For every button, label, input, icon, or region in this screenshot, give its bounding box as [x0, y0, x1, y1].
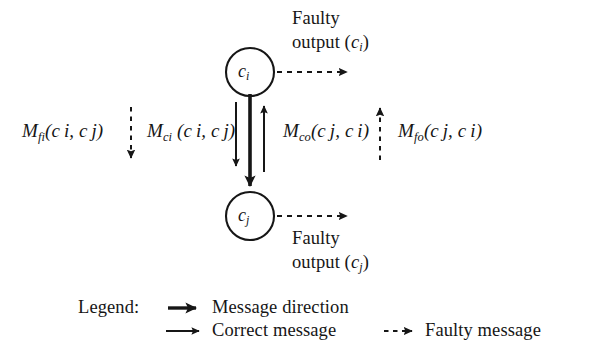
- legend-item-faulty-message-label: Faulty message: [425, 320, 541, 341]
- node-ci-label: ci: [238, 61, 249, 84]
- figure-root: ci cj Faulty output (ci) Faulty output (…: [0, 0, 606, 360]
- node-cj-circle: [226, 192, 274, 240]
- faulty-output-ci-line1: Faulty: [292, 8, 340, 29]
- faulty-output-cj-line2: output (cj): [292, 252, 369, 275]
- legend-item-correct-message-label: Correct message: [212, 320, 336, 341]
- faulty-output-ci-line2: output (ci): [292, 32, 369, 55]
- message-label-m-co: Mco(c j, c i): [283, 120, 369, 144]
- legend-title: Legend:: [78, 297, 139, 318]
- message-label-m-fo: Mfo(c j, c i): [398, 120, 482, 144]
- faulty-output-cj-line1: Faulty: [292, 228, 340, 249]
- message-label-m-fi: Mfi(c i, c j): [22, 120, 103, 144]
- node-cj-label: cj: [238, 205, 249, 228]
- node-ci-circle: [226, 48, 274, 96]
- legend-item-message-direction-label: Message direction: [212, 297, 349, 318]
- message-label-m-ci: Mci (c i, c j): [147, 120, 235, 144]
